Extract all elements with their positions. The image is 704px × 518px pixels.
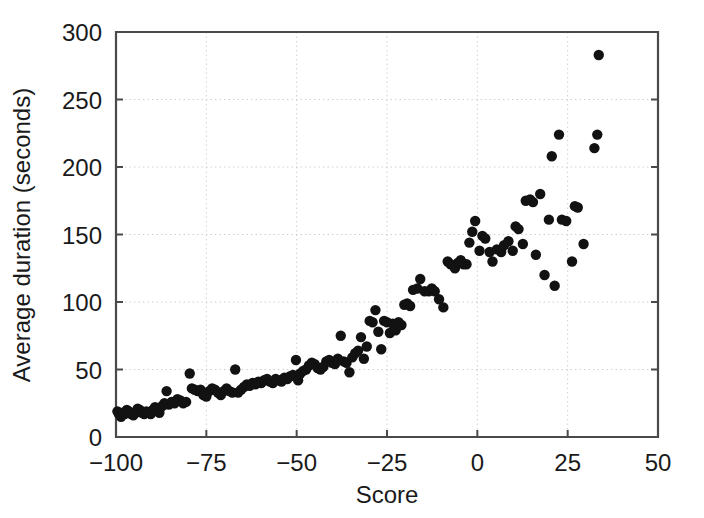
data-point: [185, 368, 195, 378]
data-point: [376, 344, 386, 354]
y-axis-title: Average duration (seconds): [8, 88, 35, 382]
data-point: [373, 327, 383, 337]
data-point: [405, 301, 415, 311]
data-point: [344, 367, 354, 377]
data-point: [438, 302, 448, 312]
data-point: [592, 129, 602, 139]
x-axis-title: Score: [356, 481, 419, 508]
data-point: [547, 151, 557, 161]
data-point: [370, 305, 380, 315]
data-point: [415, 274, 425, 284]
chart-canvas: −100−75−50−2502550 050100150200250300 Sc…: [0, 0, 704, 518]
data-point: [467, 227, 477, 237]
data-point: [336, 331, 346, 341]
y-tick-label: 150: [62, 222, 102, 249]
data-point: [356, 332, 366, 342]
y-tick-label: 100: [62, 289, 102, 316]
x-tick-label: −100: [89, 449, 143, 476]
data-point: [480, 233, 490, 243]
data-point: [554, 129, 564, 139]
x-tick-label: −25: [367, 449, 408, 476]
data-point: [291, 355, 301, 365]
chart-background: [0, 0, 704, 518]
data-point: [528, 197, 538, 207]
data-point: [367, 317, 377, 327]
y-tick-label: 200: [62, 154, 102, 181]
data-point: [359, 354, 369, 364]
scatter-chart: −100−75−50−2502550 050100150200250300 Sc…: [0, 0, 704, 518]
x-tick-label: −50: [276, 449, 317, 476]
data-point: [181, 397, 191, 407]
data-point: [396, 320, 406, 330]
x-tick-label: 50: [645, 449, 672, 476]
y-tick-label: 0: [89, 424, 102, 451]
data-point: [230, 364, 240, 374]
data-point: [567, 256, 577, 266]
data-point: [161, 386, 171, 396]
x-tick-label: −75: [186, 449, 227, 476]
y-tick-label: 250: [62, 87, 102, 114]
data-point: [474, 246, 484, 256]
data-point: [544, 214, 554, 224]
data-point: [461, 259, 471, 269]
data-point: [549, 281, 559, 291]
data-point: [573, 202, 583, 212]
data-point: [464, 237, 474, 247]
data-point: [594, 50, 604, 60]
data-point: [362, 341, 372, 351]
data-point: [561, 216, 571, 226]
data-point: [539, 270, 549, 280]
data-point: [513, 224, 523, 234]
x-tick-label: 25: [554, 449, 581, 476]
data-point: [531, 250, 541, 260]
y-tick-label: 50: [75, 357, 102, 384]
data-point: [487, 256, 497, 266]
x-tick-label: 0: [471, 449, 484, 476]
data-point: [535, 189, 545, 199]
data-point: [578, 239, 588, 249]
data-point: [589, 143, 599, 153]
data-point: [518, 239, 528, 249]
data-point: [508, 246, 518, 256]
data-point: [470, 216, 480, 226]
y-tick-label: 300: [62, 19, 102, 46]
data-point: [503, 236, 513, 246]
